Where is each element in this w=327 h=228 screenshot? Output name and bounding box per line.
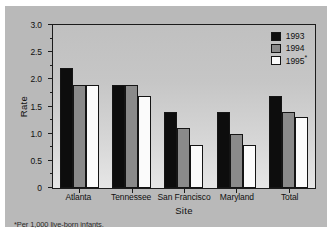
chart-footnote: *Per 1,000 live-born infants. — [14, 220, 104, 227]
bar-san-francisco-1993[interactable] — [164, 112, 177, 188]
x-label-maryland: Maryland — [211, 192, 264, 205]
x-label-tennessee: Tennessee — [105, 192, 158, 205]
bar-atlanta-1994[interactable] — [73, 85, 86, 188]
bar-group-san-francisco — [158, 25, 210, 188]
bar-group-atlanta — [53, 25, 105, 188]
bar-group-maryland — [210, 25, 262, 188]
bar-maryland-1995[interactable] — [243, 145, 256, 188]
chart-legend: 1993 1994 1995* — [271, 31, 307, 65]
legend-item-1993[interactable]: 1993 — [271, 31, 307, 41]
legend-swatch-1995 — [271, 56, 281, 65]
legend-swatch-1993 — [271, 32, 281, 41]
bar-san-francisco-1995[interactable] — [190, 145, 203, 188]
y-tick-label-3: 1.5 — [30, 102, 42, 112]
bar-atlanta-1995[interactable] — [86, 85, 99, 188]
bar-tennessee-1994[interactable] — [125, 85, 138, 188]
legend-label-1995-text: 1995 — [286, 56, 305, 66]
figure-canvas: Rate 0 0.5 1.0 1.5 2.0 2.5 3.0 — [0, 0, 327, 227]
x-axis-title: Site — [52, 205, 316, 216]
y-axis-title: Rate — [16, 24, 30, 189]
bar-group-tennessee — [105, 25, 157, 188]
y-tick-label-0: 0 — [37, 183, 42, 193]
bar-maryland-1993[interactable] — [217, 112, 230, 188]
x-axis-labels: Atlanta Tennessee San Francisco Maryland… — [52, 192, 316, 205]
y-tick-label-6: 3.0 — [30, 20, 42, 30]
bar-total-1994[interactable] — [282, 112, 295, 188]
bar-san-francisco-1994[interactable] — [177, 128, 190, 188]
bar-tennessee-1993[interactable] — [112, 85, 125, 188]
legend-label-1993: 1993 — [286, 31, 305, 41]
x-label-atlanta: Atlanta — [52, 192, 105, 205]
bar-atlanta-1993[interactable] — [60, 68, 73, 188]
bar-total-1995[interactable] — [295, 117, 308, 188]
bar-maryland-1994[interactable] — [230, 134, 243, 188]
x-label-total: Total — [263, 192, 316, 205]
legend-label-1995: 1995* — [286, 54, 307, 66]
x-label-san-francisco: San Francisco — [158, 192, 211, 205]
legend-label-1995-superscript: * — [304, 54, 307, 61]
y-tick-label-2: 1.0 — [30, 129, 42, 139]
legend-item-1994[interactable]: 1994 — [271, 43, 307, 53]
bar-tennessee-1995[interactable] — [138, 96, 151, 188]
plot-area: 0 0.5 1.0 1.5 2.0 2.5 3.0 — [52, 24, 316, 189]
y-tick-label-4: 2.0 — [30, 74, 42, 84]
figure-panel: Rate 0 0.5 1.0 1.5 2.0 2.5 3.0 — [5, 6, 327, 227]
legend-label-1994: 1994 — [286, 43, 305, 53]
legend-item-1995[interactable]: 1995* — [271, 55, 307, 65]
legend-swatch-1994 — [271, 44, 281, 53]
y-tick-label-5: 2.5 — [30, 47, 42, 57]
bar-total-1993[interactable] — [269, 96, 282, 188]
y-tick-label-1: 0.5 — [30, 156, 42, 166]
